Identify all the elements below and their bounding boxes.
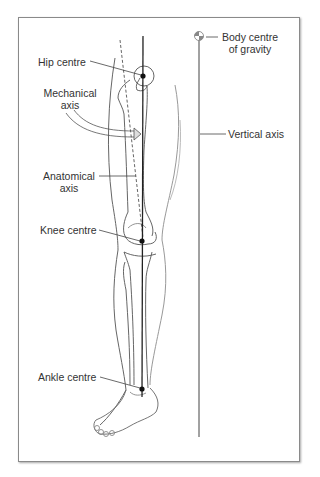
mechanical-axis-label: Mechanical axis bbox=[40, 87, 100, 111]
anatomical-axis-label-line1: Anatomical bbox=[40, 170, 98, 182]
centre-of-gravity-icon bbox=[195, 32, 204, 41]
knee-centre-dot bbox=[139, 238, 144, 243]
body-cog-label: Body centre of gravity bbox=[219, 31, 281, 55]
tibia-fibula bbox=[123, 252, 156, 388]
ankle-centre-label: Ankle centre bbox=[38, 371, 96, 383]
vertical-axis-label: Vertical axis bbox=[228, 128, 284, 140]
foot bbox=[94, 388, 158, 437]
anatomical-axis-label: Anatomical axis bbox=[40, 170, 98, 194]
ankle-centre-dot bbox=[139, 386, 144, 391]
knee-centre-label: Knee centre bbox=[40, 224, 97, 236]
anatomical-axis-line bbox=[120, 40, 143, 238]
body-cog-label-line1: Body centre bbox=[219, 31, 281, 43]
hip-centre-dot bbox=[140, 73, 145, 78]
mechanical-axis-line bbox=[142, 36, 143, 397]
femur bbox=[118, 66, 156, 245]
body-cog-label-line2: of gravity bbox=[219, 43, 281, 55]
anatomical-axis-label-line2: axis bbox=[40, 182, 98, 194]
mechanical-axis-label-line1: Mechanical bbox=[40, 87, 100, 99]
leg-diagram bbox=[0, 0, 320, 477]
hip-centre-label: Hip centre bbox=[38, 56, 86, 68]
mechanical-axis-label-line2: axis bbox=[40, 99, 100, 111]
